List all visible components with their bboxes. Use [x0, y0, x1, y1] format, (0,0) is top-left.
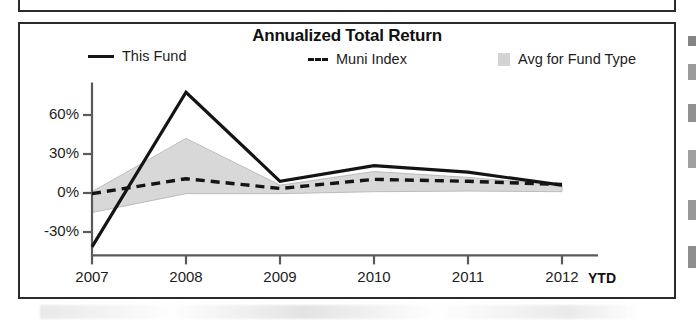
- scan-edge-artifact: [688, 30, 696, 285]
- x-axis-unit-label: YTD: [588, 270, 616, 286]
- y-axis-tick-label: -30%: [44, 222, 79, 239]
- chart-plot-svg: [20, 24, 674, 297]
- y-axis-tick-label: 60%: [49, 105, 79, 122]
- annualized-total-return-chart-panel: Annualized Total Return This Fund Muni I…: [18, 22, 676, 299]
- y-axis-tick-label: 30%: [49, 144, 79, 161]
- x-axis-tick-label: 2011: [428, 268, 508, 285]
- x-axis-tick-label: 2009: [240, 268, 320, 285]
- x-axis-tick-label: 2010: [334, 268, 414, 285]
- x-axis-tick-label: 2008: [146, 268, 226, 285]
- scan-smudge-artifact: [40, 305, 640, 319]
- y-axis-ticks: [83, 115, 92, 232]
- x-axis-ticks: [92, 255, 562, 264]
- x-axis-tick-label: 2007: [52, 268, 132, 285]
- clipped-upper-panel: [18, 0, 676, 12]
- plot-area: 60%30%0%-30% 200720082009201020112012 YT…: [20, 24, 674, 297]
- y-axis-tick-label: 0%: [57, 183, 79, 200]
